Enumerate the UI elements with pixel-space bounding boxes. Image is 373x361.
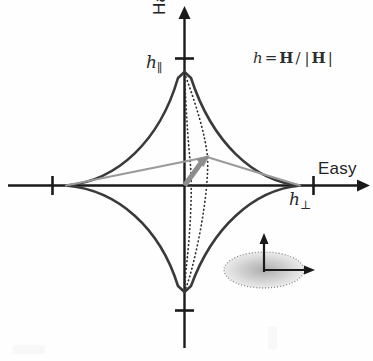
- astroid-quadrant-upper-left: [66, 72, 185, 186]
- inset-right-arrow-head: [304, 266, 315, 275]
- field-arrow-shaft: [185, 163, 202, 186]
- equation-slash: /: [293, 49, 302, 67]
- h-perpendicular-symbol: h: [289, 189, 300, 209]
- tangent-line-from-right-cusp: [207, 157, 300, 186]
- equation-abs-open: |: [303, 49, 312, 67]
- scan-artifact-bottom-center: [268, 327, 277, 349]
- magnetic-disk-inset-group: [224, 233, 315, 288]
- vertical-axis-arrowhead: [179, 6, 191, 19]
- field-vector-arrow: [185, 155, 210, 186]
- astroid-figure: Hard Easy h∥ h⊥ h=H/|H|: [0, 0, 373, 361]
- h-parallel-symbol: h: [146, 52, 157, 72]
- h-parallel-subscript: ∥: [157, 61, 162, 75]
- h-perpendicular-label: h⊥: [289, 191, 311, 211]
- tangent-construction-group: [66, 157, 300, 186]
- inset-up-arrow-head: [260, 233, 269, 244]
- equation-denominator: H: [312, 49, 326, 67]
- h-perpendicular-subscript: ⊥: [300, 198, 311, 212]
- equation-numerator: H: [279, 49, 293, 67]
- equation-lhs: h: [253, 49, 263, 67]
- astroid-quadrant-lower-left: [66, 186, 185, 293]
- field-normalization-equation: h=H/|H|: [253, 51, 335, 66]
- easy-axis-label: Easy: [318, 160, 357, 177]
- hard-axis-label: Hard: [151, 0, 168, 15]
- horizontal-axis-arrowhead: [357, 180, 370, 192]
- equation-equals: =: [263, 49, 280, 67]
- equation-abs-close: |: [326, 49, 335, 67]
- h-parallel-label: h∥: [146, 54, 162, 74]
- scan-artifact-bottom-left: [13, 345, 45, 354]
